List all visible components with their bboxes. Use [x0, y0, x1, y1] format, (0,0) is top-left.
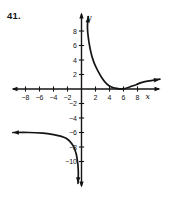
y-axis-bottom-arrow-icon	[79, 182, 83, 188]
y-tick-label: 8	[73, 28, 77, 35]
curve-arrow-icon	[13, 130, 19, 134]
figure-canvas: 41. −8−6−4−224688642−2−4−6−8−10xy	[0, 0, 171, 198]
curve-branch-lower-left	[13, 130, 80, 183]
y-axis-top-arrow-icon	[79, 13, 83, 19]
x-tick-label: 4	[108, 94, 112, 101]
y-tick-label: −6	[69, 129, 77, 136]
x-tick-label: −4	[50, 94, 58, 101]
y-tick-label: −4	[69, 115, 77, 122]
x-axis-right-arrow-icon	[155, 87, 161, 91]
y-tick-label: −10	[65, 158, 77, 165]
curve-path	[87, 17, 159, 89]
x-tick-label: 8	[136, 94, 140, 101]
curve-branch-upper-right	[86, 17, 160, 89]
y-tick-label: 4	[73, 57, 77, 64]
y-tick-label: −2	[69, 100, 77, 107]
x-tick-label: 6	[122, 94, 126, 101]
x-tick-label: 2	[94, 94, 98, 101]
x-axis-label: x	[146, 92, 151, 101]
y-tick-label: 6	[73, 42, 77, 49]
x-axis-left-arrow-icon	[12, 87, 18, 91]
x-tick-label: −8	[22, 94, 30, 101]
y-tick-label: 2	[73, 71, 77, 78]
graph-svg: −8−6−4−224688642−2−4−6−8−10xy	[0, 0, 171, 198]
x-tick-label: −6	[36, 94, 44, 101]
